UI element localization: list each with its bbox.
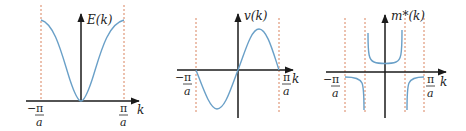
mass-curve-left: [345, 77, 364, 110]
tick-neg-pi: π: [332, 73, 339, 86]
tick-neg-minus: −: [323, 73, 332, 86]
tick-pos-pi: π: [283, 71, 290, 84]
mass-curve-right: [407, 77, 424, 110]
figure: E(k) k − π a π a v(k) k − π a π a: [0, 0, 466, 131]
tick-pos-pi: π: [120, 102, 127, 115]
energy-curve: [41, 20, 124, 101]
x-axis-label: k: [440, 75, 447, 89]
tick-pos-pi: π: [427, 73, 434, 86]
y-axis-label: m*(k): [391, 9, 425, 23]
plot-effective-mass: m*(k) k − π a π a: [323, 9, 447, 118]
x-axis-label: k: [292, 72, 299, 86]
y-axis-label: v(k): [244, 9, 268, 23]
tick-pos-den: a: [120, 116, 127, 129]
tick-neg-pi: π: [36, 102, 43, 115]
y-axis-label: E(k): [86, 13, 113, 27]
tick-pos-den: a: [427, 87, 434, 100]
x-axis-label: k: [137, 103, 144, 117]
tick-pos-den: a: [283, 85, 290, 98]
tick-neg-den: a: [36, 116, 43, 129]
tick-neg-minus: −: [27, 102, 36, 115]
plot-energy: E(k) k − π a π a: [26, 5, 144, 129]
plot-velocity: v(k) k − π a π a: [175, 9, 299, 118]
tick-neg-den: a: [184, 85, 191, 98]
tick-neg-minus: −: [175, 71, 184, 84]
tick-neg-pi: π: [184, 71, 191, 84]
tick-neg-den: a: [332, 87, 339, 100]
